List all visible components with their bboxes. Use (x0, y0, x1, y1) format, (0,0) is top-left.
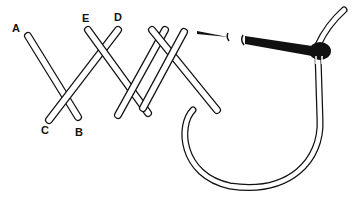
label-d: D (114, 11, 122, 23)
stitch-a-b (28, 36, 78, 117)
herringbone-stitch-diagram: A E D C B (0, 0, 353, 199)
label-c: C (41, 124, 49, 136)
needle-shaft (245, 36, 312, 56)
stitches (28, 30, 217, 120)
needle (197, 31, 331, 64)
label-e: E (82, 12, 89, 24)
label-b: B (75, 126, 83, 138)
stitch-d-c (49, 30, 118, 120)
needle-eye (309, 42, 331, 60)
label-a: A (12, 22, 20, 34)
needle-tip (197, 31, 228, 37)
